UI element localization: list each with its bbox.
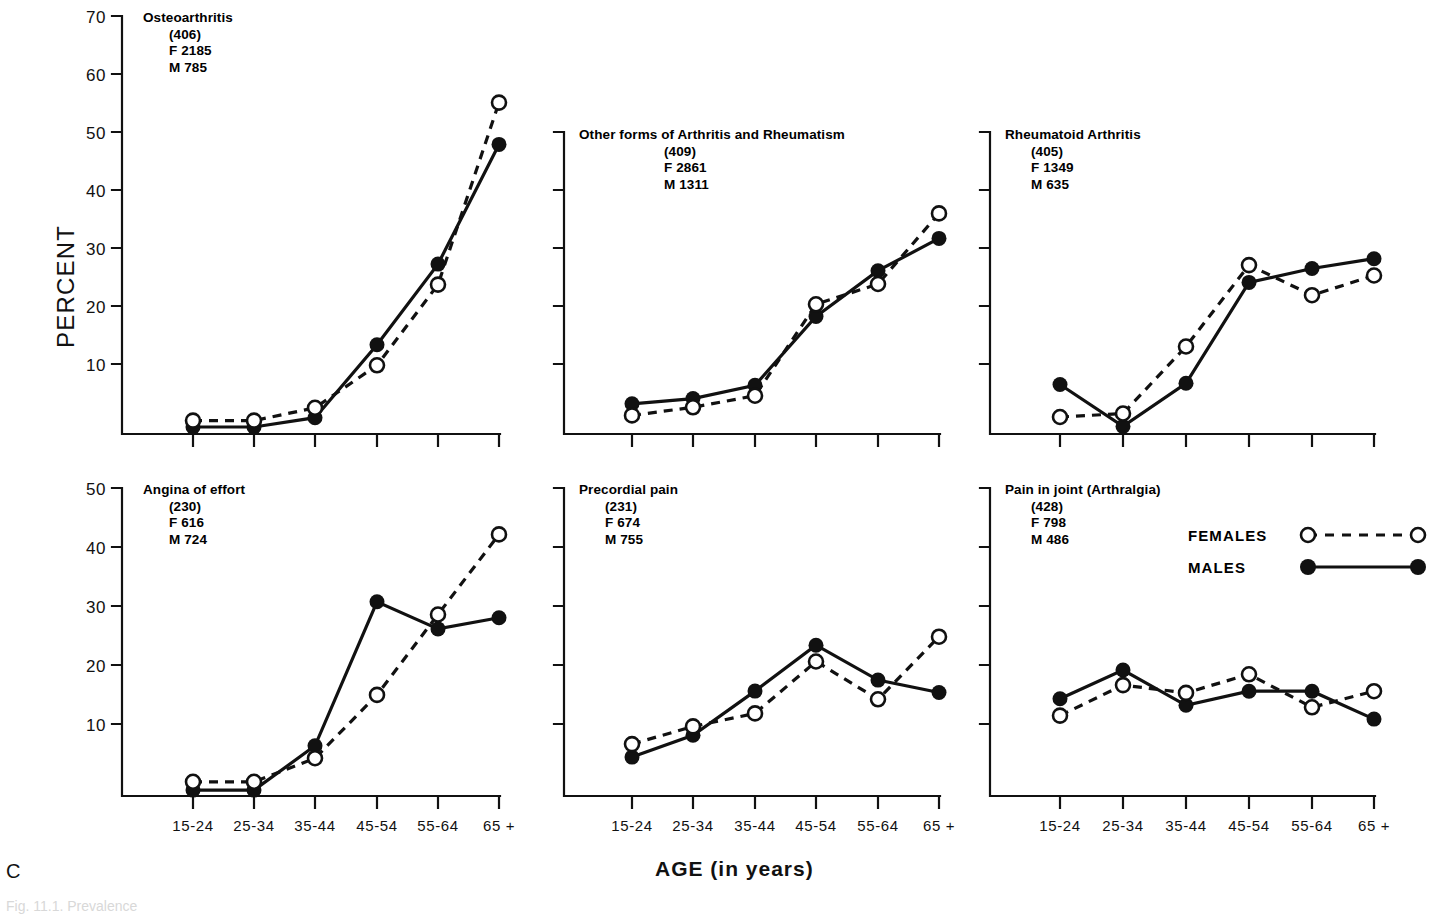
- panel-rheumatoid-arthritis: Rheumatoid Arthritis (405) F 1349 M 635: [950, 0, 1395, 450]
- series-females-markers: [625, 206, 946, 422]
- series-males-line: [632, 645, 939, 757]
- series-females-line: [193, 103, 499, 421]
- series-females-line: [632, 637, 939, 744]
- xtick-15-24: 15-24: [1030, 817, 1090, 834]
- xtick-25-34: 25-34: [224, 817, 284, 834]
- series-males-line: [632, 238, 939, 403]
- panel-precordial-pain: Precordial pain (231) F 674 M 755: [510, 460, 950, 860]
- series-males-line: [1060, 259, 1374, 427]
- series-females-line: [193, 534, 499, 781]
- series-males-line: [193, 144, 499, 427]
- xtick-45-54: 45-54: [786, 817, 846, 834]
- xtick-55-64: 55-64: [408, 817, 468, 834]
- series-females-line: [1060, 674, 1374, 715]
- series-females-line: [1060, 265, 1374, 417]
- xtick-55-64: 55-64: [848, 817, 908, 834]
- panel-other-forms-arthritis-rheumatism: Other forms of Arthritis and Rheumatism …: [510, 0, 950, 450]
- panel-angina-plot: [0, 460, 510, 860]
- panel-precordial-plot: [510, 460, 950, 860]
- xtick-35-44: 35-44: [1156, 817, 1216, 834]
- xtick-45-54: 45-54: [347, 817, 407, 834]
- series-males-markers: [1053, 251, 1382, 434]
- series-males-markers: [625, 231, 947, 411]
- panel-other-forms-plot: [510, 0, 950, 450]
- panel-arthralgia-plot: [950, 460, 1395, 860]
- xtick-45-54: 45-54: [1219, 817, 1279, 834]
- figure-caption: Fig. 11.1. Prevalence: [6, 898, 137, 914]
- series-males-line: [193, 602, 499, 790]
- panel-rheumatoid-plot: [950, 0, 1395, 450]
- panel-angina-of-effort: Angina of effort (230) F 616 M 724 50 40…: [0, 460, 510, 860]
- xtick-65plus: 65 +: [1344, 817, 1404, 834]
- series-females-markers: [186, 96, 506, 428]
- series-males-markers: [625, 638, 947, 765]
- panel-pain-in-joint-arthralgia: Pain in joint (Arthralgia) (428) F 798 M…: [950, 460, 1395, 860]
- series-females-markers: [625, 630, 946, 751]
- x-axis-label: AGE (in years): [655, 857, 814, 881]
- xtick-35-44: 35-44: [725, 817, 785, 834]
- xtick-15-24: 15-24: [602, 817, 662, 834]
- series-males-markers: [186, 137, 507, 435]
- series-females-markers: [186, 527, 506, 788]
- series-males-markers: [1053, 663, 1382, 727]
- xtick-25-34: 25-34: [1093, 817, 1153, 834]
- series-females-line: [632, 213, 939, 415]
- xtick-25-34: 25-34: [663, 817, 723, 834]
- xtick-15-24: 15-24: [163, 817, 223, 834]
- xtick-35-44: 35-44: [285, 817, 345, 834]
- panel-osteoarthritis: Osteoarthritis (406) F 2185 M 785 70 60 …: [0, 0, 510, 450]
- series-females-markers: [1053, 258, 1381, 424]
- panel-letter: C: [6, 860, 20, 883]
- series-females-markers: [1053, 667, 1381, 722]
- panel-osteoarthritis-plot: [0, 0, 510, 450]
- xtick-55-64: 55-64: [1282, 817, 1342, 834]
